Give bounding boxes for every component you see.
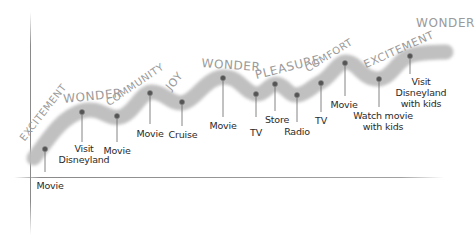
touchpoint-label: Store [265, 114, 289, 125]
touchpoint-label: Visit Disneyland [59, 143, 110, 165]
point-dot [272, 81, 277, 86]
touchpoint-label: TV [250, 127, 262, 138]
experience-diagram: EXCITEMENT WONDER COMMUNITY JOY WONDER P… [0, 0, 475, 235]
touchpoint-label: TV [315, 115, 327, 126]
label-line: Watch movie [353, 110, 413, 121]
touchpoint-label: Movie [136, 128, 163, 139]
touchpoint-label: Cruise [169, 129, 198, 140]
point-dot [294, 92, 299, 97]
point-dot [376, 76, 381, 81]
touchpoint-label: Visit Disneyland with kids [396, 76, 447, 109]
label-line: Disneyland [396, 87, 447, 98]
point-dot [220, 75, 225, 80]
touchpoint-label: Movie [330, 99, 357, 110]
point-dot [79, 109, 84, 114]
label-line: Visit [396, 76, 447, 87]
label-line: with kids [396, 98, 447, 109]
point-dot [179, 99, 184, 104]
touchpoint-label: Movie [209, 120, 236, 131]
touchpoint-label: Radio [284, 126, 310, 137]
point-dot [342, 60, 347, 65]
emotion-label: WONDER [416, 16, 475, 30]
point-dot [114, 113, 119, 118]
touchpoint-label: Movie [103, 145, 130, 156]
point-dot [42, 146, 47, 151]
point-dot [253, 91, 258, 96]
x-axis [14, 177, 444, 178]
touchpoint-label: Movie [36, 180, 63, 191]
label-line: Visit [59, 143, 110, 154]
label-line: with kids [353, 121, 413, 132]
point-dot [407, 53, 412, 58]
touchpoint-label: Watch movie with kids [353, 110, 413, 132]
label-line: Disneyland [59, 154, 110, 165]
point-dot [147, 90, 152, 95]
point-dot [318, 80, 323, 85]
